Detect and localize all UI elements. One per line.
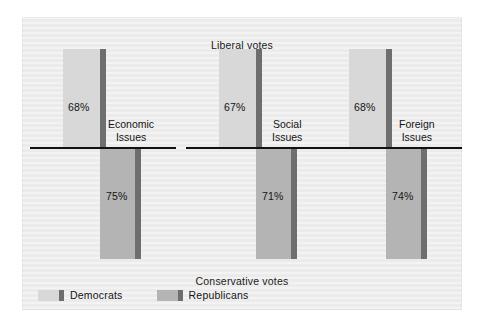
legend-item-republicans[interactable]: Republicans <box>157 289 249 301</box>
baseline-economic-issues <box>30 147 176 149</box>
category-label-foreign-issues: Foreign Issues <box>399 118 435 144</box>
bar-face <box>100 149 135 259</box>
category-label-line2: Issues <box>402 131 432 143</box>
bar-democrats-foreign-issues[interactable] <box>349 49 392 148</box>
bar-edge <box>135 149 141 259</box>
category-label-line2: Issues <box>272 131 302 143</box>
baseline-foreign-issues <box>323 147 462 149</box>
legend-swatch-republicans <box>157 290 183 301</box>
top-axis-label: Liberal votes <box>22 39 462 51</box>
bar-value-democrats-economic-issues: 68% <box>68 101 90 113</box>
legend-label-democrats: Democrats <box>70 289 123 301</box>
bar-edge <box>291 149 297 259</box>
chart-legend: Democrats Republicans <box>38 289 249 301</box>
bar-group-social-issues: 67% 71% Social Issues <box>186 17 334 267</box>
baseline-social-issues <box>186 147 332 149</box>
legend-swatch-face <box>38 290 59 301</box>
bar-value-republicans-foreign-issues: 74% <box>392 190 414 202</box>
category-label-line1: Economic <box>108 118 154 130</box>
bar-value-democrats-foreign-issues: 68% <box>354 101 376 113</box>
bar-face <box>349 49 386 148</box>
legend-item-democrats[interactable]: Democrats <box>38 289 123 301</box>
category-label-social-issues: Social Issues <box>272 118 302 144</box>
bar-republicans-foreign-issues[interactable] <box>386 149 427 259</box>
category-label-line2: Issues <box>116 131 146 143</box>
bar-edge <box>100 49 106 148</box>
bar-republicans-social-issues[interactable] <box>256 149 297 259</box>
legend-swatch-edge <box>178 290 183 301</box>
bar-group-economic-issues: 68% 75% Economic Issues <box>30 17 178 267</box>
bottom-axis-label: Conservative votes <box>22 275 462 287</box>
legend-swatch-democrats <box>38 290 64 301</box>
bar-democrats-economic-issues[interactable] <box>63 49 106 148</box>
category-label-line1: Foreign <box>399 118 435 130</box>
bar-group-foreign-issues: 68% 74% Foreign Issues <box>323 17 462 267</box>
bar-edge <box>421 149 427 259</box>
legend-label-republicans: Republicans <box>189 289 249 301</box>
legend-swatch-face <box>157 290 178 301</box>
bar-face <box>386 149 421 259</box>
bar-edge <box>256 49 262 148</box>
bar-republicans-economic-issues[interactable] <box>100 149 141 259</box>
legend-swatch-edge <box>59 290 64 301</box>
bar-face <box>219 49 256 148</box>
bar-face <box>256 149 291 259</box>
chart-panel: Liberal votes 68% 75% Economic Issues <box>22 17 462 310</box>
bar-face <box>63 49 100 148</box>
bar-edge <box>386 49 392 148</box>
bar-value-republicans-social-issues: 71% <box>262 190 284 202</box>
bar-value-republicans-economic-issues: 75% <box>106 190 128 202</box>
category-label-line1: Social <box>273 118 302 130</box>
bar-democrats-social-issues[interactable] <box>219 49 262 148</box>
bar-value-democrats-social-issues: 67% <box>224 101 246 113</box>
category-label-economic-issues: Economic Issues <box>108 118 154 144</box>
figure-canvas: Liberal votes 68% 75% Economic Issues <box>0 0 484 331</box>
